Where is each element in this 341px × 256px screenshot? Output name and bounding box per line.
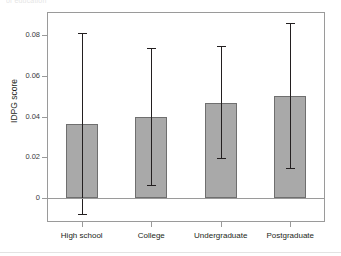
- error-bar-cap-upper-3: [286, 23, 295, 24]
- y-tick-label-3: 0.06: [12, 72, 40, 80]
- y-tick-label-2: 0.04: [12, 113, 40, 121]
- error-bar-cap-upper-2: [217, 46, 226, 47]
- y-tick-label-4: 0.08: [12, 31, 40, 39]
- error-bar-line-0: [82, 33, 83, 214]
- y-tick-label-3-wrap: 0.06: [8, 72, 40, 80]
- zero-baseline: [47, 198, 325, 199]
- y-tick-label-1-wrap: 0.02: [8, 153, 40, 161]
- x-tick-0: [82, 222, 83, 227]
- error-bar-line-1: [151, 48, 152, 185]
- x-tick-label-2: Undergraduate: [194, 231, 247, 240]
- x-tick-3: [290, 222, 291, 227]
- error-bar-cap-upper-0: [78, 33, 87, 34]
- error-bar-cap-lower-1: [147, 185, 156, 186]
- error-bar-line-2: [221, 46, 222, 159]
- y-tick-label-0-wrap: 0: [8, 194, 40, 202]
- x-tick-label-0: High school: [61, 231, 103, 240]
- error-bar-cap-lower-0: [78, 214, 87, 215]
- y-tick-label-4-wrap: 0.08: [8, 31, 40, 39]
- page-rule: [0, 252, 341, 253]
- y-tick-3: [42, 76, 47, 77]
- error-bar-cap-upper-1: [147, 48, 156, 49]
- error-bar-cap-lower-3: [286, 168, 295, 169]
- y-tick-2: [42, 117, 47, 118]
- x-tick-1: [151, 222, 152, 227]
- chart-figure: of education IDPG score 0 0.02 0.04 0.06…: [0, 0, 341, 256]
- y-tick-label-0: 0: [12, 194, 40, 202]
- y-tick-1: [42, 157, 47, 158]
- cropped-caption-fragment: of education: [6, 0, 47, 4]
- x-tick-2: [221, 222, 222, 227]
- y-tick-label-2-wrap: 0.04: [8, 113, 40, 121]
- x-tick-label-3: Postgraduate: [266, 231, 314, 240]
- x-tick-label-1: College: [138, 231, 165, 240]
- y-tick-4: [42, 35, 47, 36]
- error-bar-cap-lower-2: [217, 158, 226, 159]
- error-bar-line-3: [290, 23, 291, 168]
- y-tick-label-1: 0.02: [12, 153, 40, 161]
